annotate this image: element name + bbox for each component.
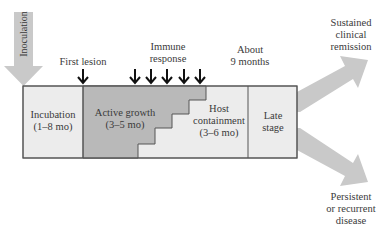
immune-response-arrow-icon	[179, 69, 189, 83]
inoculation-label-wrap: Inoculation	[14, 4, 34, 64]
stage-host-containment: Host containment (3–6 mo)	[184, 103, 254, 139]
inoculation-label: Inoculation	[18, 4, 30, 64]
persistent-arrow	[297, 128, 368, 186]
immune-response-arrow-icon	[195, 69, 205, 83]
stage-late: Late stage	[250, 110, 296, 134]
first-lesion-arrow-icon	[78, 69, 88, 83]
first-lesion-label: First lesion	[52, 56, 114, 68]
outcome-remission-label: Sustained clinical remission	[322, 17, 380, 53]
immune-response-arrow-icon	[130, 69, 140, 83]
outcome-persistent-label: Persistent or recurrent disease	[320, 191, 382, 227]
stage-incubation: Incubation (1–8 mo)	[23, 109, 83, 133]
stage-active-growth: Active growth (3–5 mo)	[88, 107, 162, 131]
immune-response-arrow-icon	[146, 69, 156, 83]
about-9-months-label: About 9 months	[222, 44, 278, 68]
immune-response-label: Immune response	[140, 41, 196, 65]
remission-arrow	[297, 56, 368, 112]
immune-response-arrow-icon	[162, 69, 172, 83]
